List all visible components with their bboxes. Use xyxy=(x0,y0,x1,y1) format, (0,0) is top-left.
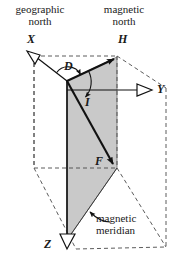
axis-z-label: Z xyxy=(44,238,51,251)
magnetic-north-label: magnetic north xyxy=(86,4,162,28)
y-arrowhead-icon xyxy=(137,84,152,96)
angle-d-label: D xyxy=(64,60,73,73)
geographic-north-line2: north xyxy=(2,16,78,28)
geographic-north-label: geographic north xyxy=(2,4,78,28)
axis-x-line xyxy=(36,57,67,81)
x-arrowhead-icon xyxy=(27,51,40,64)
axis-y-label: Y xyxy=(157,83,164,96)
geomagnetic-elements-diagram: geographic north magnetic north X H Y D … xyxy=(0,0,178,267)
magnetic-north-line2: north xyxy=(86,16,162,28)
axis-x-label: X xyxy=(27,33,35,46)
box-edge-bottom-back xyxy=(76,247,166,249)
magnetic-meridian-label: magnetic meridian xyxy=(96,213,136,237)
axis-x-group xyxy=(27,51,67,81)
angle-i-label: I xyxy=(85,96,90,109)
vector-f-label: F xyxy=(95,155,103,168)
magnetic-meridian-line2: meridian xyxy=(96,225,136,237)
vector-h-label: H xyxy=(118,33,127,46)
z-arrowhead-icon xyxy=(60,234,75,249)
